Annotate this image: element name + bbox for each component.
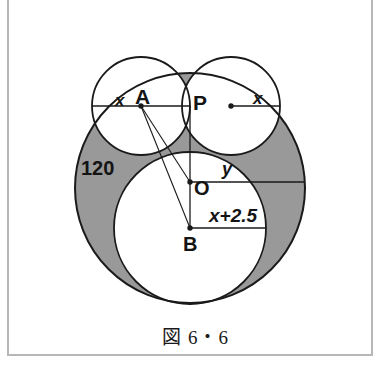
label-angle-120: 120 [81, 158, 114, 178]
label-point-B: B [183, 234, 197, 254]
label-point-O: O [194, 178, 210, 198]
figure-caption: 図 6・6 [0, 322, 391, 349]
label-point-A: A [135, 86, 150, 107]
label-x-plus-2-5: x+2.5 [209, 206, 257, 225]
dot-point-O [187, 179, 192, 184]
figure-page: x A P x 120 y O x+2.5 B 図 6・6 [0, 0, 391, 375]
label-y: y [222, 160, 232, 178]
label-x-left: x [115, 92, 124, 109]
dot-circle-P-center [228, 103, 233, 108]
dot-point-B [187, 225, 192, 230]
label-point-P: P [193, 92, 207, 113]
label-x-right: x [253, 90, 262, 107]
